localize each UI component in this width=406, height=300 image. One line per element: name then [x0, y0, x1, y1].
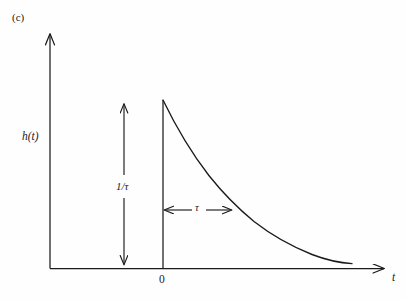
figure-exponential-impulse-response: (c) h(t) t 0 1/τ τ	[0, 0, 406, 300]
panel-label: (c)	[12, 12, 24, 23]
y-axis-label: h(t)	[22, 131, 39, 143]
exponential-decay-curve	[163, 100, 352, 264]
amplitude-annotation-label: 1/τ	[113, 180, 132, 193]
origin-tick-label: 0	[159, 274, 165, 286]
time-constant-annotation-label: τ	[192, 203, 202, 214]
figure-canvas	[0, 0, 406, 300]
x-axis-label: t	[392, 272, 395, 284]
